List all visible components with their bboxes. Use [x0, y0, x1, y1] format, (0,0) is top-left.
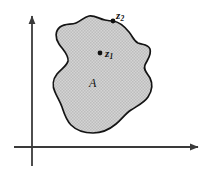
- interior-point-label-z1: z1: [105, 48, 113, 61]
- region-label-A: A: [89, 77, 96, 89]
- boundary-point-label-z2: z2: [116, 10, 124, 23]
- region-A: [53, 16, 151, 133]
- region-A-shape: [53, 16, 151, 133]
- figure-canvas: [0, 0, 212, 176]
- boundary-point-z2: [111, 19, 116, 24]
- complex-plane-region-figure: z2 z1 A: [0, 0, 212, 176]
- interior-point-z1: [98, 51, 103, 56]
